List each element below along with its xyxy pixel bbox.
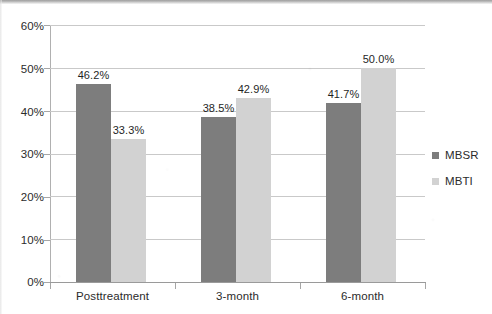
x-axis-tick-1 — [175, 283, 176, 289]
x-axis-label-posttreatment: Posttreatment — [50, 291, 175, 303]
legend-swatch-icon-mbti — [432, 178, 439, 185]
x-axis-tick-0 — [50, 283, 51, 289]
y-axis-tick-label-60: 60% — [0, 21, 44, 33]
x-axis-label-3month: 3-month — [175, 291, 300, 303]
data-label-6month-mbsr: 41.7% — [326, 89, 361, 100]
x-axis-tick-3 — [425, 283, 426, 289]
y-axis-tick-label-30: 30% — [0, 149, 44, 161]
bar-6month-mbsr — [326, 103, 361, 282]
legend-item-mbti: MBTI — [432, 176, 479, 187]
x-axis-line — [50, 282, 426, 283]
y-axis-tick-label-50: 50% — [0, 64, 44, 76]
data-label-3month-mbti: 42.9% — [236, 84, 271, 95]
bar-chart-figure: 60% 50% 40% 30% 20% 10% 0% 46.2% 33.3% 3… — [0, 0, 492, 314]
scan-artifact-top-band — [0, 0, 492, 4]
bar-posttreatment-mbsr — [76, 84, 111, 282]
gridline-60 — [50, 25, 425, 26]
y-axis-tick-label-0: 0% — [0, 277, 44, 289]
legend-item-mbsr: MBSR — [432, 150, 479, 161]
x-axis-label-6month: 6-month — [300, 291, 425, 303]
data-label-6month-mbti: 50.0% — [361, 54, 396, 65]
bar-6month-mbti — [361, 68, 396, 282]
legend-label-mbti: MBTI — [445, 176, 473, 188]
y-axis-tick-label-10: 10% — [0, 235, 44, 247]
legend-label-mbsr: MBSR — [445, 150, 479, 162]
y-axis-tick-label-40: 40% — [0, 107, 44, 119]
legend-swatch-icon-mbsr — [432, 152, 439, 159]
data-label-posttreatment-mbsr: 46.2% — [76, 70, 111, 81]
bar-posttreatment-mbti — [111, 139, 146, 282]
bar-3month-mbti — [236, 98, 271, 282]
bar-3month-mbsr — [201, 117, 236, 282]
plot-area: 46.2% 33.3% 38.5% 42.9% 41.7% 50.0% — [50, 25, 425, 282]
data-label-3month-mbsr: 38.5% — [201, 103, 236, 114]
chart-legend: MBSR MBTI — [432, 150, 479, 202]
y-axis-tick-label-20: 20% — [0, 192, 44, 204]
data-label-posttreatment-mbti: 33.3% — [111, 125, 146, 136]
x-axis-tick-2 — [300, 283, 301, 289]
